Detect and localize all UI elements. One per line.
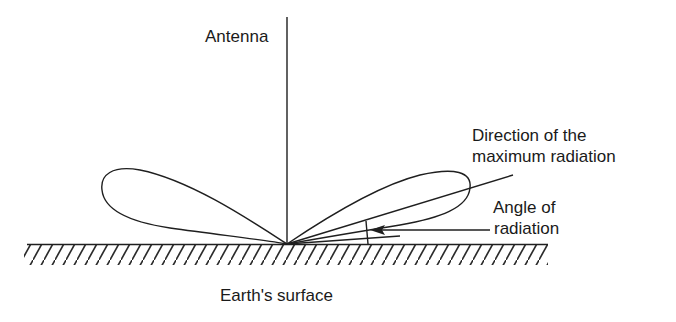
right-lobe — [287, 171, 470, 244]
radiation-pattern-diagram: Antenna Direction of the maximum radiati… — [0, 0, 676, 322]
left-lobe — [102, 169, 287, 244]
direction-label-line1: Direction of the — [472, 126, 586, 145]
ground-hatching — [24, 245, 548, 265]
antenna-label: Antenna — [205, 27, 269, 46]
angle-ray — [287, 236, 400, 244]
earth-surface-label: Earth's surface — [220, 286, 333, 305]
angle-label-line2: radiation — [494, 219, 559, 238]
max-radiation-direction-line — [287, 175, 513, 244]
earth-surface — [24, 245, 548, 266]
angle-arc — [366, 221, 368, 244]
angle-label-line1: Angle of — [493, 198, 556, 217]
direction-label-line2: maximum radiation — [472, 147, 616, 166]
